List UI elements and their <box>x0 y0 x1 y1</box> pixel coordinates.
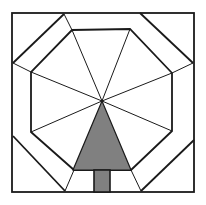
center-point <box>101 100 104 103</box>
tree-trunk <box>94 170 110 192</box>
quilt-block-drawing <box>0 0 206 205</box>
